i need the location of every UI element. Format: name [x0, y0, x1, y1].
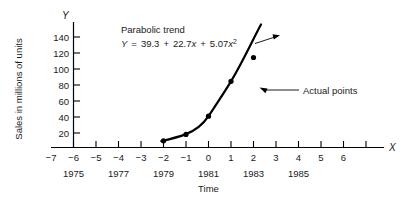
y-axis-title: Sales in millions of units	[13, 38, 24, 140]
equation-plus-1: +	[163, 38, 169, 49]
year-label: 1985	[288, 168, 309, 179]
year-label: 1981	[198, 168, 219, 179]
data-point-group	[161, 55, 256, 143]
x-tick-label: 4	[296, 152, 301, 163]
equation-lhs: Y	[121, 38, 128, 49]
equation-linear-var: x	[190, 38, 197, 49]
data-point	[228, 79, 233, 84]
equation-intercept: 39.3	[141, 38, 160, 49]
y-tick-group	[74, 37, 81, 133]
y-axis-name: Y	[62, 10, 70, 21]
x-tick-label: −2	[158, 152, 169, 163]
equation-quad-coef: 5.07	[210, 38, 229, 49]
chart-container: Y X Sales in millions of units 140 120 1…	[0, 0, 403, 198]
sales-trend-chart: Y X Sales in millions of units 140 120 1…	[0, 0, 403, 198]
equation-quad-exponent: 2	[233, 38, 237, 45]
year-label: 1979	[153, 168, 174, 179]
data-point	[161, 138, 166, 143]
x-axis-name: X	[388, 142, 396, 153]
actual-points-label: Actual points	[303, 85, 358, 96]
y-tick-label: 100	[53, 64, 69, 75]
y-tick-label: 140	[53, 32, 69, 43]
x-tick-labels: −7 −6 −5 −4 −3 −2 −1 0 1 2 3 4 5 6	[46, 152, 347, 163]
trend-label: Parabolic trend	[121, 24, 185, 35]
data-point	[183, 132, 188, 137]
x-axis-title: Time	[198, 183, 219, 194]
y-tick-label: 120	[53, 48, 69, 59]
year-label: 1975	[63, 168, 84, 179]
x-tick-label: −7	[46, 152, 57, 163]
points-leader-arrow	[260, 88, 268, 94]
year-label: 1977	[108, 168, 129, 179]
points-leader	[260, 88, 300, 94]
data-point	[206, 114, 211, 119]
equation-linear-coef: 22.7	[173, 38, 192, 49]
equation-equals: =	[131, 38, 137, 49]
x-tick-group	[74, 141, 367, 148]
y-tick-labels: 140 120 100 80 60 40 20	[53, 32, 69, 139]
x-tick-label: 5	[318, 152, 323, 163]
x-tick-label: 6	[341, 152, 346, 163]
x-tick-label: 0	[206, 152, 211, 163]
year-labels: 1975 1977 1979 1981 1983 1985	[63, 168, 309, 179]
equation-leader-arrow	[273, 34, 281, 39]
x-tick-label: −5	[91, 152, 102, 163]
year-label: 1983	[243, 168, 264, 179]
equation-leader	[255, 34, 280, 43]
x-tick-label: 2	[251, 152, 256, 163]
x-tick-label: −1	[181, 152, 192, 163]
x-tick-label: −3	[136, 152, 147, 163]
y-tick-label: 80	[58, 80, 69, 91]
data-point	[251, 55, 256, 60]
y-tick-label: 20	[58, 128, 69, 139]
trend-equation: Y=39.3+22.7x+5.07x2	[121, 38, 237, 50]
x-tick-label: 3	[273, 152, 278, 163]
x-tick-label: −6	[68, 152, 79, 163]
equation-plus-2: +	[200, 38, 206, 49]
x-tick-label: −4	[113, 152, 124, 163]
y-tick-label: 60	[58, 96, 69, 107]
y-tick-label: 40	[58, 112, 69, 123]
x-tick-label: 1	[228, 152, 233, 163]
